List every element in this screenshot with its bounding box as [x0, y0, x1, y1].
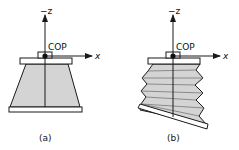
top-plate	[20, 58, 72, 64]
z-axis-label: −z	[40, 6, 53, 16]
panel-a: −z COP x (a)	[9, 6, 101, 143]
x-axis-label: x	[94, 51, 101, 61]
diagram-canvas: −z COP x (a) −z COP x (b)	[0, 0, 239, 150]
panel-caption: (a)	[39, 133, 52, 143]
x-axis-label: x	[222, 51, 229, 61]
cop-label: COP	[176, 42, 195, 52]
top-plate	[148, 58, 200, 64]
cop-label: COP	[48, 42, 67, 52]
cop-point	[42, 53, 47, 58]
z-axis-label: −z	[168, 6, 181, 16]
panel-caption: (b)	[167, 133, 180, 143]
panel-b: −z COP x (b)	[138, 6, 229, 143]
cop-point	[170, 53, 175, 58]
bottom-plate	[9, 107, 82, 112]
